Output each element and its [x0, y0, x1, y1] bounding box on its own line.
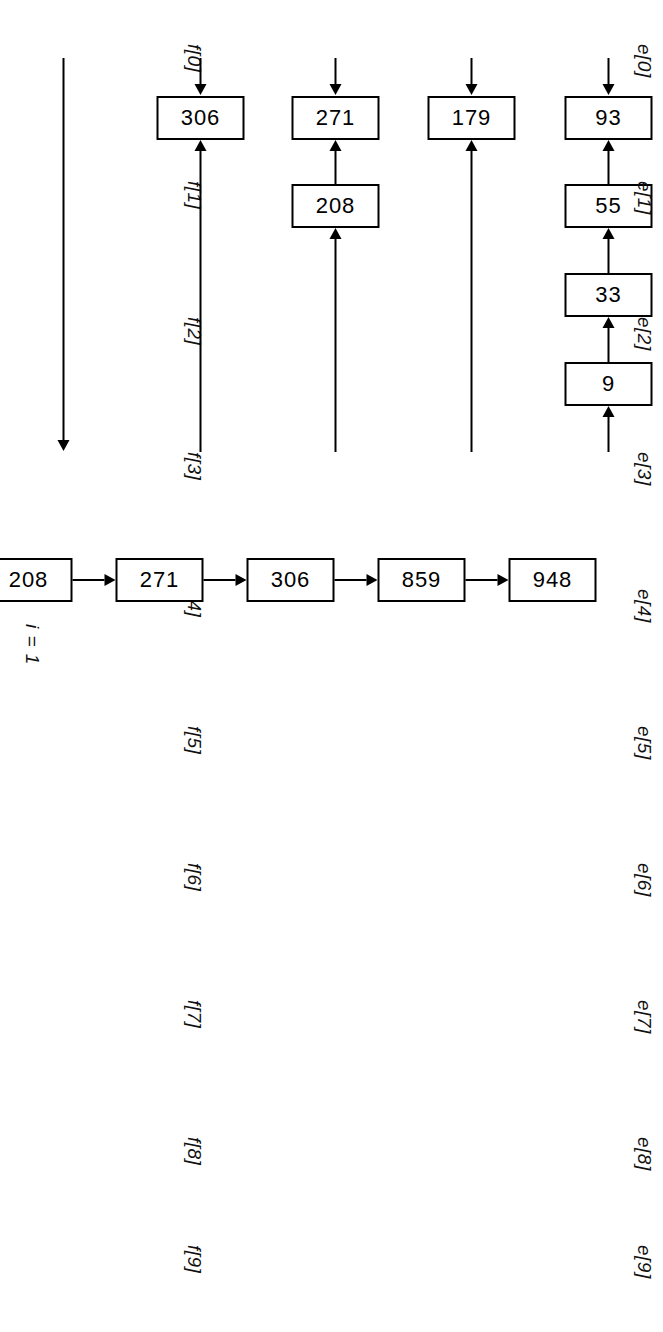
arrowhead-icon	[235, 574, 246, 586]
chain-node: 306	[246, 558, 334, 602]
chain-link	[334, 579, 366, 581]
arrowhead-icon	[104, 574, 115, 586]
chain-link	[203, 579, 235, 581]
chain-node-text: 306	[270, 567, 310, 593]
bucket-label-f: f[9]	[184, 1245, 203, 1267]
bucket-label-e: e[9]	[634, 1245, 653, 1267]
iteration-label: i = 1	[20, 624, 42, 665]
chain-node: 859	[377, 558, 465, 602]
chain-node-text: 948	[532, 567, 572, 593]
bucket-row: e[9]f[9]984	[0, 0, 663, 1332]
chain-node-text: 271	[139, 567, 179, 593]
chain-link	[72, 579, 104, 581]
arrowhead-icon	[497, 574, 508, 586]
chain-node-text: 208	[8, 567, 48, 593]
chain-link	[465, 579, 497, 581]
rotated-figure: e[0]f[0]9355339e[1]f[1]179e[2]f[2]271208…	[0, 0, 663, 1332]
figure-canvas: e[0]f[0]9355339e[1]f[1]179e[2]f[2]271208…	[0, 0, 663, 1332]
chain-node: 948	[508, 558, 596, 602]
arrowhead-icon	[366, 574, 377, 586]
chain-node-text: 859	[401, 567, 441, 593]
chain-node: 208	[0, 558, 72, 602]
chain-node: 271	[115, 558, 203, 602]
